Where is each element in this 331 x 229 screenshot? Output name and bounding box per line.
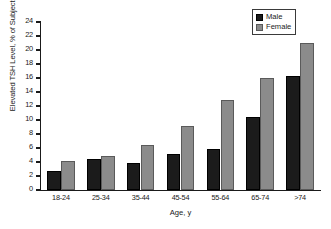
- y-tick-label: 14: [25, 87, 33, 94]
- legend-label-female: Female: [266, 23, 291, 31]
- bar-male-25-34: [87, 159, 101, 191]
- y-tick-label: 6: [29, 143, 33, 150]
- bar-male-18-24: [47, 171, 61, 190]
- x-axis-title: Age, y: [41, 209, 320, 217]
- y-tick-label: 24: [25, 17, 33, 24]
- bar-male-65-74: [246, 117, 260, 191]
- legend-label-male: Male: [266, 13, 282, 21]
- y-tick-mark: [36, 119, 41, 120]
- y-tick-mark: [36, 35, 41, 36]
- bar-female-55-64: [221, 100, 235, 190]
- y-axis-title: Elevated TSH Level, % of Subjects: [9, 0, 17, 129]
- bar-male-55-64: [207, 149, 221, 190]
- bar-male-45-54: [167, 154, 181, 190]
- y-tick-mark: [36, 147, 41, 148]
- x-tick-label: 35-44: [121, 194, 161, 202]
- bar-group: [161, 22, 201, 190]
- plot-area: [41, 22, 320, 190]
- y-tick-label: 2: [29, 171, 33, 178]
- bar-male->74: [286, 76, 300, 190]
- y-tick-mark: [36, 63, 41, 64]
- bar-female-35-44: [141, 145, 155, 190]
- chart-figure: Elevated TSH Level, % of Subjects Age, y…: [0, 0, 331, 229]
- legend-item-female: Female: [256, 22, 291, 32]
- y-tick-label: 12: [25, 101, 33, 108]
- y-tick-mark: [36, 49, 41, 50]
- bar-group: [240, 22, 280, 190]
- x-tick-label: >74: [280, 194, 320, 202]
- y-tick-label: 22: [25, 31, 33, 38]
- y-tick-mark: [36, 175, 41, 176]
- y-tick-mark: [36, 91, 41, 92]
- y-tick-mark: [36, 161, 41, 162]
- bar-female-25-34: [101, 156, 115, 190]
- y-tick-mark: [36, 133, 41, 134]
- bar-group: [121, 22, 161, 190]
- bar-group: [200, 22, 240, 190]
- bar-female-65-74: [260, 78, 274, 190]
- legend-swatch-male-icon: [256, 14, 263, 21]
- bar-female-18-24: [61, 161, 75, 190]
- y-tick-label: 16: [25, 73, 33, 80]
- bar-female-45-54: [181, 126, 195, 190]
- y-tick-mark: [36, 189, 41, 190]
- y-tick-mark: [36, 105, 41, 106]
- x-tick-label: 55-64: [200, 194, 240, 202]
- bar-group: [280, 22, 320, 190]
- y-tick-label: 20: [25, 45, 33, 52]
- y-tick-label: 8: [29, 129, 33, 136]
- y-tick-label: 4: [29, 157, 33, 164]
- legend-swatch-female-icon: [256, 24, 263, 31]
- bar-group: [41, 22, 81, 190]
- y-tick-mark: [36, 21, 41, 22]
- y-tick-label: 10: [25, 115, 33, 122]
- x-tick-label: 65-74: [240, 194, 280, 202]
- y-tick-label: 0: [29, 185, 33, 192]
- x-tick-label: 45-54: [161, 194, 201, 202]
- y-tick-mark: [36, 77, 41, 78]
- x-tick-label: 25-34: [81, 194, 121, 202]
- bar-male-35-44: [127, 163, 141, 190]
- bar-female->74: [300, 43, 314, 190]
- chart-legend: Male Female: [252, 9, 296, 35]
- x-tick-label: 18-24: [41, 194, 81, 202]
- bar-group: [81, 22, 121, 190]
- y-tick-label: 18: [25, 59, 33, 66]
- legend-item-male: Male: [256, 12, 291, 22]
